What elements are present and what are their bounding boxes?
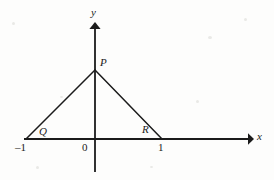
scan-speck: [244, 18, 247, 21]
x-axis-arrowhead: [248, 133, 254, 144]
y-axis-arrowhead: [89, 22, 100, 29]
x-tick-label-one: 1: [158, 142, 164, 153]
point-label-p: P: [100, 57, 107, 68]
point-label-q: Q: [39, 126, 47, 137]
origin-label: 0: [82, 142, 88, 153]
point-label-r: R: [142, 124, 149, 135]
scan-speck: [12, 22, 15, 25]
triangle-side-pr: [95, 70, 162, 139]
x-tick-label-negative-one: –1: [15, 142, 26, 153]
x-axis-label: x: [257, 131, 262, 142]
scan-speck: [150, 166, 153, 168]
y-axis-label: y: [91, 7, 96, 18]
scan-speck: [60, 96, 63, 98]
coordinate-plane-drawing: [0, 0, 274, 180]
scan-speck: [196, 100, 199, 103]
scan-speck: [36, 166, 39, 169]
triangle-side-qp: [26, 70, 95, 139]
scan-speck: [208, 36, 212, 39]
math-figure-triangle-pqr: y x P Q R –1 0 1: [0, 0, 274, 180]
